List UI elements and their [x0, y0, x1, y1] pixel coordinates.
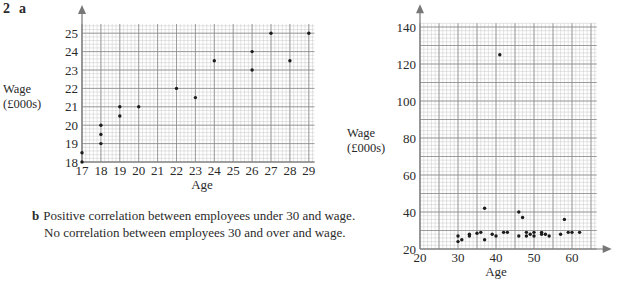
- data-point: [479, 231, 482, 234]
- answer-b-line2: No correlation between employees 30 and …: [32, 224, 355, 241]
- x-tick-label: 60: [566, 250, 579, 265]
- data-point: [529, 233, 532, 236]
- data-point: [525, 231, 528, 234]
- data-point: [544, 233, 547, 236]
- x-tick-label: 30: [452, 250, 465, 265]
- data-point: [540, 233, 543, 236]
- data-point: [483, 238, 486, 241]
- data-point: [460, 238, 463, 241]
- y-tick-label: 60: [403, 168, 416, 183]
- y-tick-label: 120: [397, 57, 417, 72]
- y-tick-label: 40: [403, 205, 416, 220]
- data-point: [506, 231, 509, 234]
- x-axis-arrow-icon: [603, 245, 612, 253]
- answer-b: bPositive correlation between employees …: [32, 207, 355, 241]
- y-tick-label: 100: [397, 94, 417, 109]
- y-tick-label: 140: [397, 20, 417, 35]
- data-point: [517, 210, 520, 213]
- data-point: [491, 233, 494, 236]
- y-axis-arrow-icon: [416, 4, 424, 13]
- data-point: [498, 53, 501, 56]
- data-point: [468, 234, 471, 237]
- grid: [420, 23, 597, 249]
- answer-b-line1: Positive correlation between employees u…: [43, 208, 355, 223]
- y-tick-label: 20: [403, 242, 416, 257]
- data-point: [517, 234, 520, 237]
- x-axis-label: Age: [485, 264, 507, 279]
- data-point: [475, 232, 478, 235]
- data-point: [570, 231, 573, 234]
- x-tick-label: 40: [490, 250, 503, 265]
- data-point: [559, 233, 562, 236]
- data-point: [494, 234, 497, 237]
- data-point: [525, 234, 528, 237]
- data-point: [521, 216, 524, 219]
- data-point: [548, 234, 551, 237]
- x-tick-label: 50: [528, 250, 541, 265]
- data-point: [567, 231, 570, 234]
- data-point: [532, 234, 535, 237]
- data-point: [578, 231, 581, 234]
- data-point: [483, 207, 486, 210]
- data-point: [502, 231, 505, 234]
- data-point: [456, 240, 459, 243]
- part-b-label: b: [32, 208, 39, 223]
- data-point: [456, 234, 459, 237]
- data-point: [532, 231, 535, 234]
- data-point: [563, 218, 566, 221]
- y-tick-label: 80: [403, 131, 416, 146]
